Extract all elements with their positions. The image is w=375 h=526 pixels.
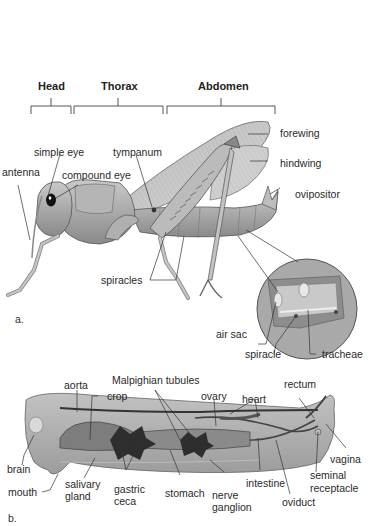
label-forewing: forewing	[280, 127, 320, 139]
label-salivary-gland-2: gland	[65, 490, 91, 502]
panel-label-b: b.	[8, 512, 17, 524]
internal-anatomy-drawing	[25, 393, 335, 474]
label-oviduct: oviduct	[282, 496, 315, 508]
panel-label-a: a.	[15, 313, 24, 325]
label-brain: brain	[7, 463, 30, 475]
label-simple-eye: simple eye	[34, 146, 84, 158]
label-salivary-gland-1: salivary	[65, 478, 101, 490]
label-seminal-receptacle-2: receptacle	[310, 482, 358, 494]
label-antenna: antenna	[2, 166, 40, 178]
label-intestine: intestine	[246, 477, 285, 489]
label-hindwing: hindwing	[280, 157, 321, 169]
label-stomach: stomach	[165, 487, 205, 499]
label-aorta: aorta	[64, 379, 88, 391]
label-rectum: rectum	[284, 378, 316, 390]
label-gastric-ceca-1: gastric	[114, 483, 145, 495]
spiracle-inset	[257, 259, 357, 359]
label-compound-eye: compound eye	[62, 169, 131, 181]
illustration	[0, 0, 375, 526]
label-spiracles: spiracles	[101, 274, 142, 286]
label-malpighian-tubules: Malpighian tubules	[112, 374, 200, 386]
region-label-abdomen: Abdomen	[198, 80, 249, 92]
label-nerve-ganglion-1: nerve	[212, 489, 238, 501]
label-tracheae: tracheae	[322, 348, 363, 360]
region-label-head: Head	[38, 80, 65, 92]
grasshopper-anatomy-figure: Head Thorax Abdomen simple eye tympanum …	[0, 0, 375, 526]
label-ovary: ovary	[201, 390, 227, 402]
label-nerve-ganglion-2: ganglion	[212, 501, 252, 513]
label-gastric-ceca-2: ceca	[114, 495, 136, 507]
label-vagina: vagina	[330, 453, 361, 465]
region-label-thorax: Thorax	[101, 80, 138, 92]
label-crop: crop	[107, 390, 127, 402]
label-seminal-receptacle-1: seminal	[310, 469, 346, 481]
label-air-sac: air sac	[216, 328, 247, 340]
leader-lines-a	[18, 134, 316, 354]
label-mouth: mouth	[8, 486, 37, 498]
label-heart: heart	[242, 393, 266, 405]
label-spiracle: spiracle	[245, 348, 281, 360]
region-brackets	[31, 98, 275, 114]
label-ovipositor: ovipositor	[295, 188, 340, 200]
label-tympanum: tympanum	[113, 146, 162, 158]
